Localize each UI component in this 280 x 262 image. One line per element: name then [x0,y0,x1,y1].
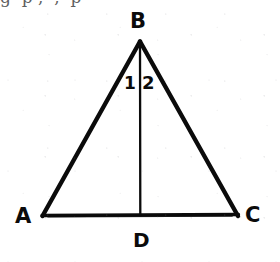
angle-label-2: 2 [142,74,155,92]
vertex-label-b: B [130,11,146,32]
vertex-label-a: A [15,206,31,227]
triangle-strokes [42,42,239,217]
geometry-figure: g p , , p B A C D 1 2 [0,0,280,262]
triangle-diagram [0,0,280,262]
vertex-label-d: D [133,230,150,250]
segment-side-BC [140,42,238,217]
vertex-label-c: C [245,205,260,226]
angle-label-1: 1 [124,75,136,92]
segment-side-AB [43,42,141,217]
